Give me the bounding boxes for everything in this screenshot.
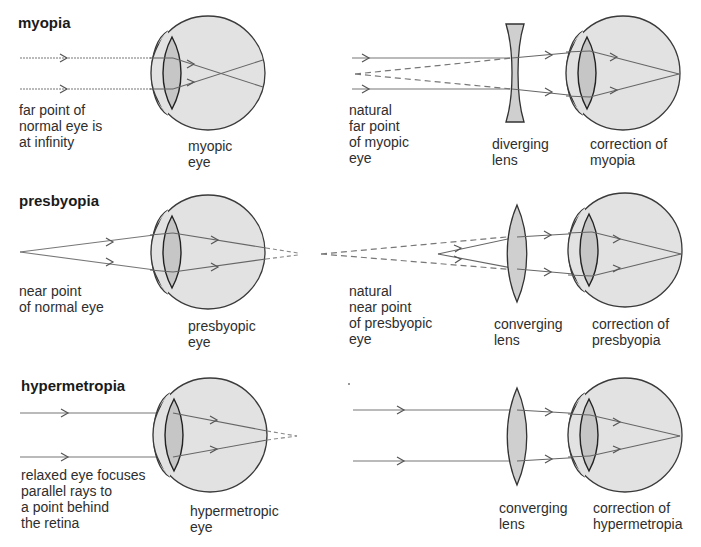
converging-lens-hypermetropia (507, 388, 527, 485)
caption-converging-lens-hypermetropia: converging lens (499, 500, 568, 532)
diverging-lens (506, 24, 524, 122)
caption-natural-near-point: natural near point of presbyopic eye (349, 283, 432, 347)
hypermetropia-correction-diagram (353, 378, 682, 492)
caption-converging-lens-presbyopia: converging lens (494, 316, 563, 348)
title-hypermetropia: hypermetropia (21, 377, 125, 394)
caption-myopic-eye: myopic eye (188, 138, 232, 170)
converging-lens-presbyopia (507, 205, 527, 302)
caption-near-point-normal: near point of normal eye (19, 283, 104, 315)
caption-natural-far-point: natural far point of myopic eye (349, 102, 409, 166)
caption-myopia-far-point: far point of normal eye is at infinity (19, 102, 102, 150)
caption-hypermetropic-eye: hypermetropic eye (190, 503, 279, 535)
title-myopia: myopia (18, 14, 71, 31)
caption-correction-presbyopia: correction of presbyopia (592, 316, 669, 348)
caption-relaxed-eye: relaxed eye focuses parallel rays to a p… (21, 467, 146, 531)
caption-presbyopic-eye: presbyopic eye (188, 318, 256, 350)
title-presbyopia: presbyopia (19, 192, 99, 209)
caption-correction-hypermetropia: correction of hypermetropia (593, 500, 683, 532)
caption-correction-myopia: correction of myopia (590, 136, 667, 168)
caption-diverging-lens: diverging lens (492, 136, 549, 168)
eye-defects-diagram (0, 0, 701, 547)
